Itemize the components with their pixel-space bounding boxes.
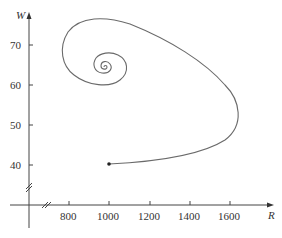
x-axis: R 800 1000 1200 1400 1600 [10,201,275,222]
x-tick-label-1000: 1000 [97,210,120,222]
chart-container: W 70 60 50 40 R 800 1000 1200 [0,0,282,238]
trajectory-curve [62,19,238,164]
y-tick-label-50: 50 [10,119,22,131]
x-tick-label-1600: 1600 [218,210,241,222]
y-tick-label-70: 70 [10,39,22,51]
y-axis-arrow-icon [27,12,32,19]
y-axis-label: W [16,9,26,21]
x-tick-label-1400: 1400 [178,210,201,222]
x-tick-label-800: 800 [60,210,77,222]
phase-plot: W 70 60 50 40 R 800 1000 1200 [0,0,282,238]
y-tick-label-40: 40 [10,159,22,171]
x-axis-arrow-icon [267,203,274,208]
start-point-marker [107,162,111,166]
y-tick-label-60: 60 [10,79,22,91]
y-axis: W 70 60 50 40 [10,9,33,228]
x-axis-label: R [267,209,275,221]
x-tick-label-1200: 1200 [138,210,161,222]
